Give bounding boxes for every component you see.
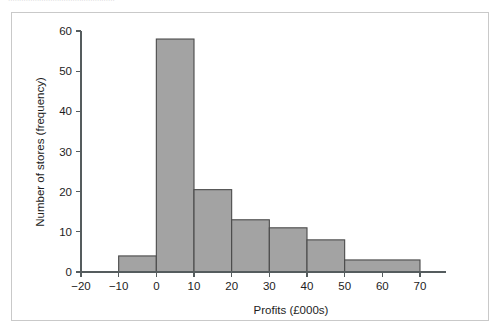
histogram-bar [232, 220, 270, 272]
x-tick-label: 30 [263, 280, 276, 292]
histogram-bar [194, 190, 232, 272]
x-tick-label: 70 [414, 280, 427, 292]
x-tick-label: 50 [338, 280, 351, 292]
y-axis-ticks: 0102030405060 [59, 25, 81, 278]
y-tick-label: 60 [59, 25, 72, 37]
y-tick-label: 10 [59, 226, 72, 238]
x-tick-label: −10 [109, 280, 129, 292]
x-tick-label: 0 [153, 280, 159, 292]
histogram-bar [307, 240, 345, 272]
y-tick-label: 30 [59, 146, 72, 158]
y-tick-label: 0 [66, 266, 72, 278]
bars-group [119, 39, 420, 272]
x-tick-label: 40 [301, 280, 314, 292]
histogram-bar [269, 228, 307, 272]
y-tick-label: 40 [59, 105, 72, 117]
x-tick-label: 10 [188, 280, 201, 292]
y-tick-label: 50 [59, 65, 72, 77]
histogram-chart: −20−10010203040506070 0102030405060 Prof… [0, 0, 503, 334]
histogram-bar [156, 39, 194, 272]
histogram-svg: −20−10010203040506070 0102030405060 Prof… [0, 0, 503, 334]
histogram-bar [345, 260, 420, 272]
histogram-bar [119, 256, 157, 272]
x-tick-label: 60 [376, 280, 389, 292]
x-tick-label: 20 [225, 280, 238, 292]
y-axis-label: Number of stores (frequency) [34, 77, 46, 227]
x-axis-ticks: −20−10010203040506070 [71, 272, 426, 292]
x-tick-label: −20 [71, 280, 91, 292]
y-tick-label: 20 [59, 186, 72, 198]
x-axis-label: Profits (£000s) [254, 304, 329, 316]
